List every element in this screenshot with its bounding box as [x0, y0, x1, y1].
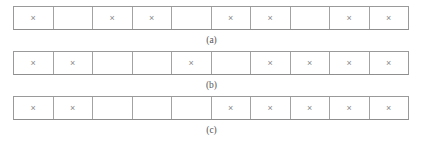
cell[interactable]: × [251, 52, 291, 74]
cell[interactable]: × [14, 52, 54, 74]
cell[interactable]: × [330, 52, 370, 74]
cross-icon: × [347, 59, 352, 68]
cross-icon: × [347, 14, 352, 23]
panel-c: ××××××× (c) [0, 96, 423, 136]
cell[interactable]: × [330, 7, 370, 29]
cross-icon: × [307, 104, 312, 113]
panel-b: ××××××× (b) [0, 51, 423, 91]
cross-icon: × [31, 59, 36, 68]
cell[interactable]: × [291, 97, 331, 119]
cell[interactable]: × [291, 52, 331, 74]
cell[interactable] [93, 97, 133, 119]
cross-icon: × [268, 59, 273, 68]
cell[interactable]: × [370, 7, 409, 29]
cell[interactable] [54, 7, 94, 29]
cell[interactable]: × [14, 7, 54, 29]
cell-row-a: ××××××× [13, 6, 409, 30]
cell[interactable] [93, 52, 133, 74]
cross-icon: × [149, 14, 154, 23]
cell[interactable] [212, 52, 252, 74]
cross-icon: × [31, 104, 36, 113]
cell[interactable]: × [370, 52, 409, 74]
cross-icon: × [189, 59, 194, 68]
cell[interactable] [172, 97, 212, 119]
cross-icon: × [228, 14, 233, 23]
cross-icon: × [386, 59, 391, 68]
cross-icon: × [228, 104, 233, 113]
cell[interactable] [172, 7, 212, 29]
cell[interactable]: × [133, 7, 173, 29]
panel-a: ××××××× (a) [0, 6, 423, 46]
cell[interactable]: × [14, 97, 54, 119]
cross-icon: × [31, 14, 36, 23]
cell-row-b: ××××××× [13, 51, 409, 75]
cross-icon: × [347, 104, 352, 113]
panel-caption-b: (b) [0, 79, 423, 91]
cell[interactable]: × [54, 52, 94, 74]
cell[interactable]: × [172, 52, 212, 74]
cell[interactable]: × [212, 7, 252, 29]
cell[interactable]: × [251, 97, 291, 119]
cross-icon: × [268, 104, 273, 113]
cell[interactable]: × [212, 97, 252, 119]
cross-icon: × [110, 14, 115, 23]
cross-icon: × [386, 104, 391, 113]
cell-row-c: ××××××× [13, 96, 409, 120]
figure-container: ××××××× (a) ××××××× (b) ××××××× (c) [0, 0, 423, 148]
cell[interactable]: × [370, 97, 409, 119]
cell[interactable] [291, 7, 331, 29]
cell[interactable] [133, 97, 173, 119]
cell[interactable]: × [330, 97, 370, 119]
cross-icon: × [70, 104, 75, 113]
cross-icon: × [307, 59, 312, 68]
cross-icon: × [386, 14, 391, 23]
cross-icon: × [70, 59, 75, 68]
panel-caption-a: (a) [0, 34, 423, 46]
cell[interactable] [133, 52, 173, 74]
panel-caption-c: (c) [0, 124, 423, 136]
cross-icon: × [268, 14, 273, 23]
cell[interactable]: × [54, 97, 94, 119]
cell[interactable]: × [251, 7, 291, 29]
cell[interactable]: × [93, 7, 133, 29]
